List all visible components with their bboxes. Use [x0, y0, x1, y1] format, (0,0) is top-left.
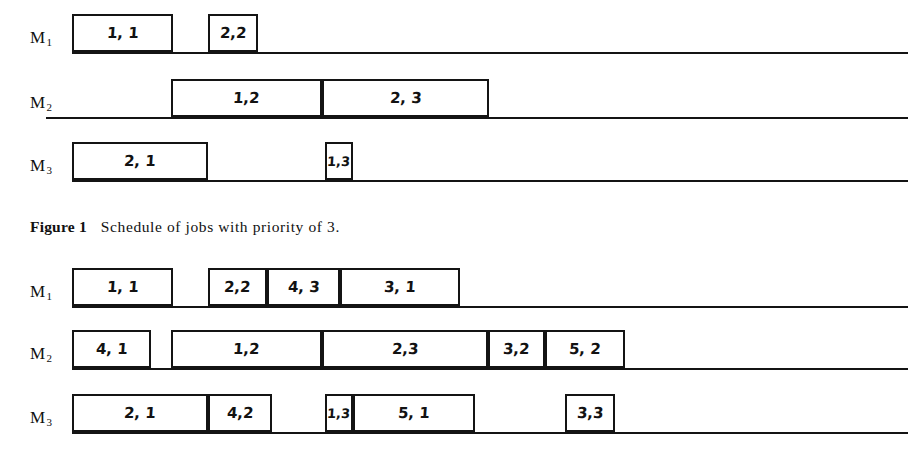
machine-letter: M: [30, 408, 45, 427]
timeline-axis: [72, 368, 908, 370]
machine-letter: M: [30, 344, 45, 363]
machine-letter: M: [30, 156, 45, 175]
job-box: 2,2: [208, 14, 258, 52]
job-label: 2, 1: [124, 406, 157, 421]
job-box: 4,2: [208, 394, 272, 432]
job-label: 2, 1: [124, 154, 157, 169]
machine-index: 2: [46, 352, 52, 364]
job-box: 2, 3: [322, 79, 489, 117]
machine-index: 1: [46, 290, 52, 302]
job-label: 1,3: [327, 407, 351, 420]
job-box: 4, 3: [267, 268, 340, 306]
machine-label: M3: [30, 408, 51, 428]
machine-label: M2: [30, 344, 51, 364]
timeline-axis: [72, 306, 908, 308]
timeline-axis: [46, 117, 908, 119]
job-label: 3,2: [503, 342, 531, 357]
machine-label: M1: [30, 28, 51, 48]
job-box: 5, 2: [545, 330, 625, 368]
figure-caption-title: Figure 1: [30, 218, 87, 235]
job-box: 2,2: [208, 268, 267, 306]
job-box: 1, 1: [72, 268, 173, 306]
job-label: 1,2: [233, 91, 261, 106]
job-box: 4, 1: [72, 330, 151, 368]
job-label: 2,2: [219, 26, 247, 41]
job-box: 3,3: [565, 394, 615, 432]
job-box: 1,2: [171, 330, 322, 368]
job-box: 3,2: [488, 330, 545, 368]
job-box: 2, 1: [72, 142, 208, 180]
machine-index: 3: [46, 416, 52, 428]
machine-row-m3: M32, 11,3: [0, 142, 917, 186]
job-label: 4, 3: [287, 280, 320, 295]
machine-index: 3: [46, 164, 52, 176]
job-box: 3, 1: [340, 268, 460, 306]
figure-caption-text: Schedule of jobs with priority of 3.: [101, 218, 340, 235]
job-box: 5, 1: [353, 394, 475, 432]
job-box: 1,3: [325, 394, 353, 432]
machine-row-m2: M24, 11,22,33,25, 2: [0, 330, 917, 374]
job-box: 1, 1: [72, 14, 173, 52]
job-label: 1,3: [327, 155, 351, 168]
machine-letter: M: [30, 282, 45, 301]
job-label: 1, 1: [106, 280, 139, 295]
job-label: 5, 2: [569, 342, 602, 357]
job-label: 2,2: [224, 280, 252, 295]
job-label: 4,2: [226, 406, 254, 421]
machine-row-m1: M11, 12,2: [0, 14, 917, 58]
timeline-axis: [72, 180, 908, 182]
job-label: 4, 1: [95, 342, 128, 357]
job-box: 1,2: [171, 79, 322, 117]
job-box: 1,3: [325, 142, 353, 180]
machine-row-m2: M21,22, 3: [0, 79, 917, 123]
machine-index: 1: [46, 36, 52, 48]
job-label: 3,3: [576, 406, 604, 421]
job-label: 2,3: [391, 342, 419, 357]
machine-letter: M: [30, 93, 45, 112]
job-box: 2,3: [322, 330, 488, 368]
job-label: 2, 3: [389, 91, 422, 106]
timeline-axis: [72, 432, 908, 434]
job-label: 1,2: [233, 342, 261, 357]
job-label: 3, 1: [384, 280, 417, 295]
machine-index: 2: [46, 101, 52, 113]
job-label: 5, 1: [398, 406, 431, 421]
job-box: 2, 1: [72, 394, 208, 432]
machine-label: M2: [30, 93, 51, 113]
machine-label: M3: [30, 156, 51, 176]
machine-letter: M: [30, 28, 45, 47]
machine-label: M1: [30, 282, 51, 302]
machine-row-m3: M32, 14,21,35, 13,3: [0, 394, 917, 438]
timeline-axis: [72, 52, 908, 54]
figure-caption: Figure 1Schedule of jobs with priority o…: [30, 218, 340, 236]
machine-row-m1: M11, 12,24, 33, 1: [0, 268, 917, 312]
job-label: 1, 1: [106, 26, 139, 41]
